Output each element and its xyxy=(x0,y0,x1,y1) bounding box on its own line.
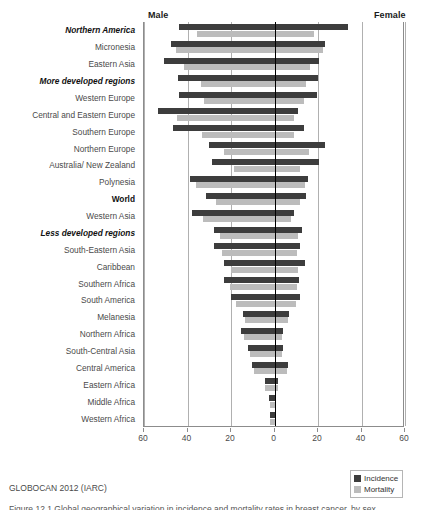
category-label: Northern Africa xyxy=(0,329,135,339)
source-note: GLOBOCAN 2012 (IARC) xyxy=(9,483,107,493)
bar-layer xyxy=(143,22,404,427)
legend: Incidence Mortality xyxy=(350,470,403,498)
category-label: Melanesia xyxy=(0,312,135,322)
bar-mortality xyxy=(202,132,294,138)
category-label: Caribbean xyxy=(0,262,135,272)
bar-mortality xyxy=(244,334,282,340)
legend-label-mortality: Mortality xyxy=(364,485,394,494)
bar-incidence xyxy=(224,260,305,266)
bar-mortality xyxy=(177,115,294,121)
category-label: Less developed regions xyxy=(0,228,135,238)
bar-mortality xyxy=(201,81,306,87)
x-tick-label: 20 xyxy=(312,433,321,443)
bar-mortality xyxy=(224,149,309,155)
x-tick xyxy=(274,428,275,432)
x-tick-label: 0 xyxy=(271,433,276,443)
female-axis-heading: Female xyxy=(374,10,406,20)
category-label: Northern America xyxy=(0,25,135,35)
x-tick xyxy=(187,428,188,432)
bar-incidence xyxy=(252,362,288,368)
gridline-60 xyxy=(405,22,406,426)
bar-mortality xyxy=(254,368,287,374)
bar-mortality xyxy=(197,31,313,37)
legend-swatch-incidence xyxy=(354,475,361,482)
bar-incidence xyxy=(178,75,317,81)
bar-incidence xyxy=(171,41,326,47)
x-axis: 6040200204060 xyxy=(143,428,404,446)
x-tick xyxy=(361,428,362,432)
bar-mortality xyxy=(230,284,297,290)
category-label: South America xyxy=(0,295,135,305)
bar-incidence xyxy=(179,92,317,98)
category-label: South-Central Asia xyxy=(0,346,135,356)
category-label: Central America xyxy=(0,363,135,373)
bar-incidence xyxy=(190,176,308,182)
bar-mortality xyxy=(204,98,304,104)
bar-incidence xyxy=(214,227,302,233)
bar-incidence xyxy=(192,210,294,216)
x-tick xyxy=(317,428,318,432)
legend-swatch-mortality xyxy=(354,486,361,493)
chart-figure: Male Female Northern AmericaMicronesiaEa… xyxy=(0,0,429,510)
bar-mortality xyxy=(245,317,288,323)
bar-incidence xyxy=(231,294,300,300)
x-tick-label: 60 xyxy=(399,433,408,443)
category-label: Western Asia xyxy=(0,211,135,221)
bar-mortality xyxy=(203,216,292,222)
bar-mortality xyxy=(184,64,310,70)
category-label: Australia/ New Zealand xyxy=(0,160,135,170)
bar-mortality xyxy=(220,233,298,239)
bar-incidence xyxy=(206,193,306,199)
bar-mortality xyxy=(265,385,277,391)
bar-incidence xyxy=(158,108,298,114)
x-tick-label: 60 xyxy=(138,433,147,443)
category-label: Western Africa xyxy=(0,414,135,424)
bar-incidence xyxy=(209,142,326,148)
bar-mortality xyxy=(176,47,323,53)
category-label: South-Eastern Asia xyxy=(0,245,135,255)
bar-mortality xyxy=(216,199,300,205)
x-tick-label: 40 xyxy=(182,433,191,443)
legend-label-incidence: Incidence xyxy=(364,474,398,483)
category-label: Micronesia xyxy=(0,42,135,52)
bar-incidence xyxy=(265,378,278,384)
bar-incidence xyxy=(248,345,283,351)
legend-item-mortality: Mortality xyxy=(354,484,398,495)
category-label: Western Europe xyxy=(0,93,135,103)
x-tick xyxy=(230,428,231,432)
bar-incidence xyxy=(243,311,288,317)
bar-mortality xyxy=(231,267,298,273)
bar-incidence xyxy=(214,243,300,249)
category-label: Northern Europe xyxy=(0,144,135,154)
x-tick xyxy=(143,428,144,432)
category-label: Southern Europe xyxy=(0,127,135,137)
bar-mortality xyxy=(222,250,296,256)
zero-axis-line xyxy=(275,22,276,426)
male-axis-heading: Male xyxy=(148,10,168,20)
category-label: World xyxy=(0,194,135,204)
category-label-column: Northern AmericaMicronesiaEastern AsiaMo… xyxy=(0,22,139,427)
legend-item-incidence: Incidence xyxy=(354,473,398,484)
x-tick-label: 40 xyxy=(356,433,365,443)
category-label: Eastern Africa xyxy=(0,380,135,390)
bar-incidence xyxy=(164,58,319,64)
x-tick xyxy=(404,428,405,432)
category-label: More developed regions xyxy=(0,76,135,86)
category-label: Polynesia xyxy=(0,177,135,187)
category-label: Central and Eastern Europe xyxy=(0,110,135,120)
bar-mortality xyxy=(236,301,296,307)
figure-caption: Figure 12.1 Global geographical variatio… xyxy=(9,504,421,510)
category-label: Southern Africa xyxy=(0,279,135,289)
bar-incidence xyxy=(224,277,299,283)
bar-incidence xyxy=(212,159,319,165)
bar-mortality xyxy=(250,351,282,357)
bar-incidence xyxy=(241,328,283,334)
bar-mortality xyxy=(234,166,301,172)
bar-mortality xyxy=(196,182,305,188)
bar-incidence xyxy=(179,24,349,30)
category-label: Eastern Asia xyxy=(0,59,135,69)
bar-incidence xyxy=(173,125,304,131)
category-label: Middle Africa xyxy=(0,397,135,407)
x-tick-label: 20 xyxy=(225,433,234,443)
